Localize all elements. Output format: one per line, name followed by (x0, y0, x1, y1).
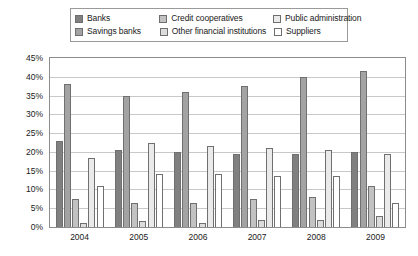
legend-item-public-administration: Public administration (273, 12, 343, 25)
bar (368, 186, 375, 227)
bar (292, 154, 299, 227)
x-axis: 200420052006200720082009 (50, 229, 405, 247)
bar (56, 141, 63, 227)
bar (215, 174, 222, 227)
legend-label: Savings banks (87, 27, 141, 36)
y-axis-tick-label: 20% (26, 147, 43, 156)
bar-group-2009 (346, 58, 405, 227)
bar (88, 158, 95, 227)
legend-swatch-icon (159, 15, 167, 23)
y-axis-tick-label: 40% (26, 72, 43, 81)
bar (182, 92, 189, 227)
bar (233, 154, 240, 227)
bars-layer (50, 58, 405, 227)
bar (392, 203, 399, 227)
legend-label: Banks (87, 14, 110, 23)
legend-item-other-financial-institutions: Other financial institutions (160, 25, 274, 38)
bar-group-2006 (168, 58, 227, 227)
x-axis-tick-label: 2007 (228, 229, 287, 247)
y-axis-tick-label: 30% (26, 110, 43, 119)
bar-group-2007 (228, 58, 287, 227)
y-axis-tick-label: 25% (26, 129, 43, 138)
y-axis: 45%40%35%30%25%20%15%10%5%0% (0, 57, 46, 228)
bar (80, 223, 87, 227)
bar-group-2008 (287, 58, 346, 227)
legend-label: Suppliers (286, 27, 321, 36)
bar (72, 199, 79, 227)
bar (148, 143, 155, 228)
legend-swatch-icon (273, 15, 281, 23)
bar-group-2005 (109, 58, 168, 227)
y-axis-tick-label: 45% (26, 54, 43, 63)
bar (309, 197, 316, 227)
bar (300, 77, 307, 227)
y-axis-tick-label: 10% (26, 185, 43, 194)
bar (174, 152, 181, 227)
x-axis-tick-label: 2008 (287, 229, 346, 247)
legend-swatch-icon (75, 15, 83, 23)
bar (207, 146, 214, 227)
legend-swatch-icon (274, 28, 282, 36)
bar (97, 186, 104, 227)
bar (250, 199, 257, 227)
legend-label: Credit cooperatives (171, 14, 242, 23)
bar (190, 203, 197, 227)
bar (199, 223, 206, 227)
legend-item-savings-banks: Savings banks (75, 25, 160, 38)
bar (266, 148, 273, 227)
chart-legend: Banks Credit cooperatives Public adminis… (70, 8, 348, 42)
bar-group-2004 (50, 58, 109, 227)
x-axis-tick-label: 2009 (346, 229, 405, 247)
legend-label: Other financial institutions (172, 27, 267, 36)
bar (384, 154, 391, 227)
bar (317, 220, 324, 228)
y-axis-tick-label: 35% (26, 91, 43, 100)
legend-row: Banks Credit cooperatives Public adminis… (75, 12, 343, 25)
y-axis-tick-label: 5% (31, 204, 43, 213)
legend-item-credit-cooperatives: Credit cooperatives (159, 12, 273, 25)
bar (123, 96, 130, 227)
bar (64, 84, 71, 227)
bar (258, 220, 265, 228)
bar (360, 71, 367, 227)
legend-label: Public administration (285, 14, 361, 23)
bar (139, 221, 146, 227)
legend-swatch-icon (160, 28, 168, 36)
legend-swatch-icon (75, 28, 83, 36)
bar (241, 86, 248, 227)
legend-row: Savings banks Other financial institutio… (75, 25, 343, 38)
x-axis-tick-label: 2006 (168, 229, 227, 247)
bar (131, 203, 138, 227)
grouped-bar-chart: Banks Credit cooperatives Public adminis… (0, 0, 418, 256)
y-axis-tick-label: 15% (26, 166, 43, 175)
bar (274, 176, 281, 227)
bar (325, 150, 332, 227)
bar (156, 174, 163, 227)
y-axis-tick-label: 0% (31, 223, 43, 232)
bar (115, 150, 122, 227)
bar (333, 176, 340, 227)
bar (351, 152, 358, 227)
legend-item-banks: Banks (75, 12, 159, 25)
x-axis-tick-label: 2005 (109, 229, 168, 247)
x-axis-tick-label: 2004 (50, 229, 109, 247)
legend-item-suppliers: Suppliers (274, 25, 343, 38)
bar (376, 216, 383, 227)
